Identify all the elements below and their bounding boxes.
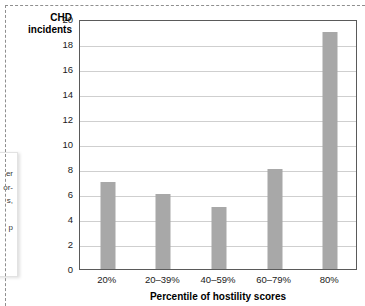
y-axis-tick-label: 18	[49, 40, 73, 50]
y-axis-tick-label: 16	[49, 65, 73, 75]
x-axis-tick-label: 20%	[97, 274, 116, 285]
y-axis-tick-label: 4	[49, 215, 73, 225]
bars-layer	[80, 21, 356, 269]
y-axis-tick-label: 12	[49, 115, 73, 125]
bar-slot	[302, 21, 358, 269]
y-axis-tick-label: 20	[49, 15, 73, 25]
y-axis-tick-label: 0	[49, 265, 73, 275]
y-axis-tick-label: 8	[49, 165, 73, 175]
y-axis-tick-labels: 02468101214161820	[47, 20, 73, 270]
x-axis-tick-label: 60–79%	[256, 274, 291, 285]
bar-slot	[136, 21, 192, 269]
plot-area	[79, 20, 357, 270]
bar	[211, 207, 226, 270]
bar	[156, 194, 171, 269]
y-axis-tick-label: 6	[49, 190, 73, 200]
bar	[100, 182, 115, 270]
y-axis-tick-label: 14	[49, 90, 73, 100]
x-axis-tick-label: 20–39%	[145, 274, 180, 285]
bar-slot	[191, 21, 247, 269]
bar	[267, 169, 282, 269]
x-axis-title: Percentile of hostility scores	[79, 291, 357, 302]
y-axis-tick-label: 10	[49, 140, 73, 150]
bar-slot	[247, 21, 303, 269]
bar-chart: CHD incidents 02468101214161820 20%20–39…	[0, 0, 365, 306]
bar-slot	[80, 21, 136, 269]
bar	[323, 32, 338, 270]
x-axis-tick-label: 40–59%	[201, 274, 236, 285]
y-axis-tick-label: 2	[49, 240, 73, 250]
x-axis-tick-label: 80%	[320, 274, 339, 285]
x-axis-tick-labels: 20%20–39%40–59%60–79%80%	[79, 274, 357, 288]
